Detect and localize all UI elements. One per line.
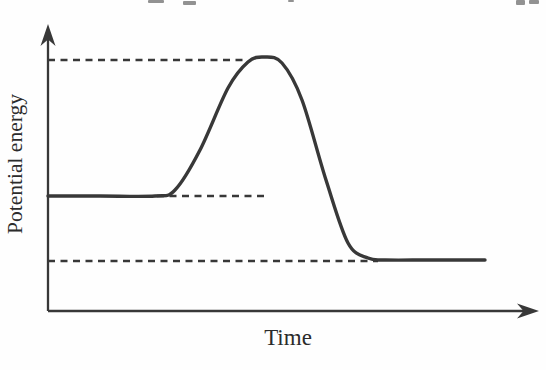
scan-crop-artifact <box>529 0 539 4</box>
scan-crop-artifact <box>288 0 294 2</box>
scan-crop-artifact <box>516 0 525 5</box>
x-axis-label: Time <box>264 325 312 350</box>
chart-drawing <box>41 0 540 319</box>
potential-energy-curve <box>48 57 485 260</box>
energy-vs-time-chart: Potential energy Time <box>0 0 546 370</box>
y-axis-label: Potential energy <box>3 94 27 234</box>
textbook-figure-page: Potential energy Time <box>0 0 546 370</box>
scan-crop-artifact <box>148 0 164 3</box>
scan-crop-artifact <box>183 1 196 5</box>
